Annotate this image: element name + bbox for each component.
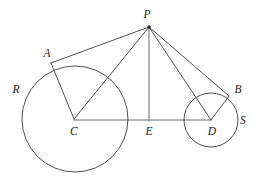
radius-segment-DB — [211, 96, 229, 120]
tangent-segment-PB — [149, 27, 229, 96]
vertex-dot-P — [147, 25, 151, 29]
radius-segment-CA — [51, 63, 74, 119]
point-label-E: E — [145, 126, 152, 138]
circle-label-R: R — [12, 84, 19, 96]
geometry-diagram: P A B C E D R S — [0, 0, 264, 189]
point-label-B: B — [234, 84, 241, 96]
large-circle-R — [22, 66, 128, 172]
point-label-C: C — [70, 126, 78, 138]
segment-PD — [149, 27, 211, 120]
circle-label-S: S — [240, 115, 246, 127]
point-label-P: P — [143, 9, 150, 21]
point-label-A: A — [43, 48, 50, 60]
diagram-svg-layer — [0, 0, 264, 189]
point-label-D: D — [208, 126, 217, 138]
